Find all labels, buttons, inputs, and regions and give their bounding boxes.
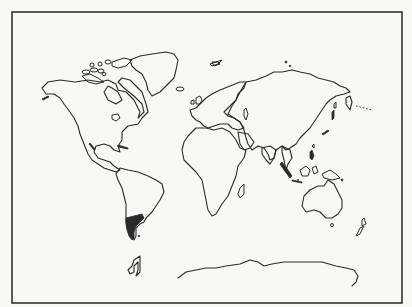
north-america	[42, 78, 148, 172]
philippines	[310, 150, 314, 160]
arabia	[238, 132, 254, 150]
new-zealand-south	[356, 226, 364, 236]
japan	[332, 110, 334, 120]
africa	[182, 128, 246, 216]
madagascar	[238, 184, 244, 198]
new-guinea	[322, 170, 340, 180]
kuril-islands	[356, 106, 372, 110]
map-svg	[0, 0, 412, 307]
europe	[190, 82, 246, 130]
ireland	[191, 100, 194, 104]
sumatra	[280, 162, 292, 178]
iceland	[176, 87, 184, 91]
new-zealand-north	[362, 218, 366, 226]
arctic-island	[98, 62, 102, 66]
great-lakes	[112, 114, 120, 121]
new-siberian-islands	[289, 65, 291, 67]
new-siberian-islands	[285, 61, 287, 63]
baffin-island	[82, 74, 104, 84]
sakhalin	[334, 102, 336, 108]
antarctica	[178, 260, 358, 286]
sulawesi	[312, 166, 318, 174]
australia	[302, 180, 342, 218]
taiwan	[312, 144, 314, 148]
falkland-islands	[138, 235, 140, 237]
kamchatka	[346, 96, 352, 110]
arctic-island	[82, 70, 90, 74]
ellesmere-island	[112, 58, 132, 68]
patagonia-highlighted-region	[126, 214, 144, 240]
world-map	[0, 0, 412, 307]
arctic-island	[105, 60, 111, 64]
solomon-islands	[341, 179, 343, 181]
hudson-bay	[104, 86, 122, 104]
arctic-island	[90, 63, 94, 67]
alaska-peninsula	[42, 96, 49, 100]
tasmania	[331, 224, 334, 227]
japan-south	[322, 130, 329, 135]
arctic-island	[90, 68, 98, 72]
arctic-island	[102, 73, 106, 76]
south-america	[116, 168, 164, 240]
baja-california	[89, 143, 95, 150]
antarctic-peninsula	[128, 256, 140, 276]
map-frame	[12, 12, 402, 303]
borneo	[300, 166, 310, 176]
greenland	[130, 52, 178, 96]
british-isles	[196, 96, 202, 104]
cuba	[118, 145, 128, 149]
java	[292, 180, 302, 183]
lesser-sunda-islands	[297, 179, 298, 180]
caspian-sea	[244, 108, 248, 120]
